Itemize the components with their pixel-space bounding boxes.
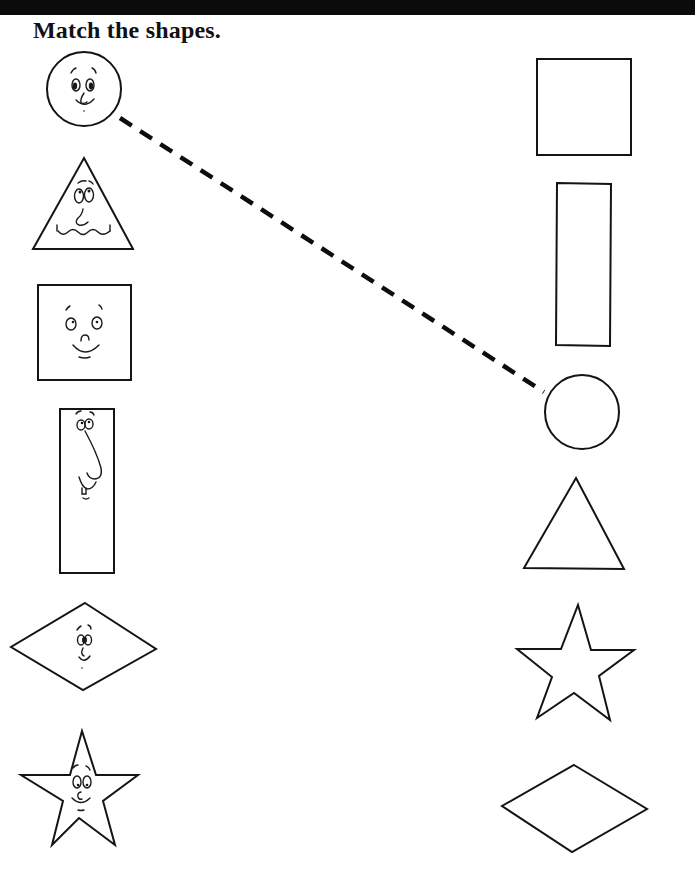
triangle-shape — [33, 158, 133, 249]
rectangle-shape — [556, 183, 611, 346]
face-icon — [77, 625, 92, 669]
square-shape — [537, 59, 631, 155]
right-triangle[interactable] — [524, 478, 624, 569]
triangle-shape — [524, 478, 624, 569]
circle-shape — [47, 52, 121, 126]
square-shape — [38, 285, 131, 380]
face-icon — [71, 68, 96, 112]
circle-shape — [545, 375, 619, 449]
left-square-face[interactable] — [38, 285, 131, 380]
face-icon — [72, 765, 91, 811]
right-circle[interactable] — [545, 375, 619, 449]
right-rectangle[interactable] — [556, 183, 611, 346]
face-icon — [57, 181, 110, 235]
star-shape — [21, 731, 138, 845]
diamond-shape — [502, 765, 647, 852]
worksheet-canvas — [0, 0, 695, 875]
example-match-line — [120, 118, 544, 392]
face-icon — [76, 411, 101, 499]
right-diamond[interactable] — [502, 765, 647, 852]
left-circle-face[interactable] — [47, 52, 121, 126]
left-diamond-face[interactable] — [11, 603, 156, 690]
diamond-shape — [11, 603, 156, 690]
star-shape — [517, 605, 634, 720]
left-triangle-face[interactable] — [33, 158, 133, 249]
left-star-face[interactable] — [21, 731, 138, 845]
face-icon — [66, 305, 102, 358]
left-rectangle-face[interactable] — [60, 409, 114, 573]
right-square[interactable] — [537, 59, 631, 155]
right-star[interactable] — [517, 605, 634, 720]
